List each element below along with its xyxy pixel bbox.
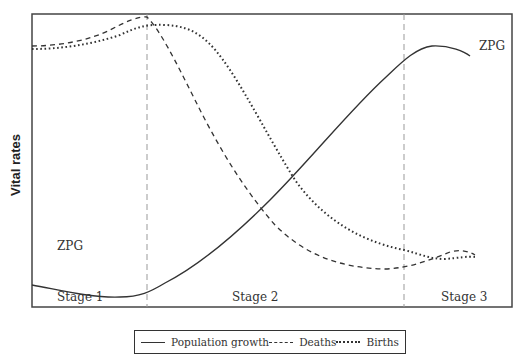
legend: Population growth Deaths Births <box>134 330 406 354</box>
dotted-line-icon <box>336 341 360 343</box>
dashed-line-icon <box>269 342 293 343</box>
solid-line-icon <box>141 342 165 343</box>
demographic-transition-chart: Vital rates ZPG ZPG Stage 1 Stage 2 Stag… <box>0 0 520 364</box>
legend-item-births: Births <box>336 336 398 348</box>
y-axis-label: Vital rates <box>8 134 23 196</box>
births-line <box>32 25 475 259</box>
zpg-label-right: ZPG <box>479 39 505 53</box>
deaths-line <box>32 17 475 269</box>
legend-item-deaths: Deaths <box>269 336 336 348</box>
legend-label: Population growth <box>171 336 269 348</box>
legend-item-population-growth: Population growth <box>141 336 269 348</box>
legend-label: Births <box>366 336 398 348</box>
plot-frame <box>32 14 512 307</box>
legend-label: Deaths <box>299 336 336 348</box>
stage-2-label: Stage 2 <box>232 290 278 304</box>
stage-1-label: Stage 1 <box>57 290 103 304</box>
zpg-label-left: ZPG <box>57 239 83 253</box>
stage-3-label: Stage 3 <box>441 290 487 304</box>
